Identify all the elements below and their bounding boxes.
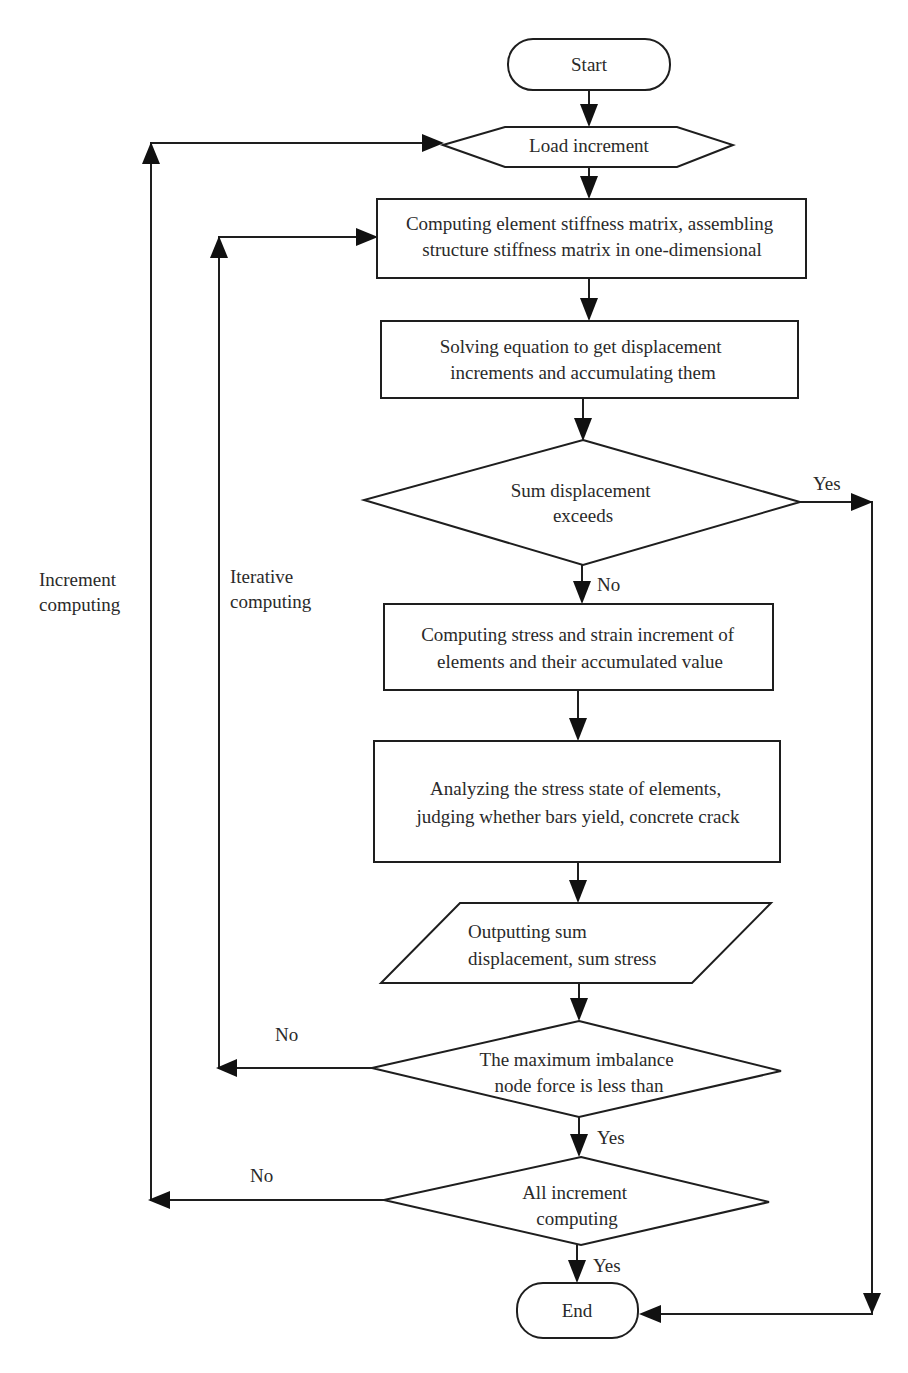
- node-analyze-line-2: judging whether bars yield, concrete cra…: [416, 806, 740, 827]
- svg-text:Load increment: Load increment: [529, 135, 649, 156]
- label-all-no: No: [250, 1165, 273, 1186]
- label-all-yes: Yes: [593, 1255, 621, 1276]
- node-check-all-line-1: All increment: [522, 1182, 628, 1203]
- arrow-left-icon: [639, 1305, 661, 1323]
- label-increment-computing: Increment computing: [39, 569, 121, 615]
- node-check-displacement-line-2: exceeds: [553, 505, 613, 526]
- arrow-down-icon: [570, 1134, 588, 1157]
- arrow-down-icon: [568, 1260, 586, 1283]
- edge-labels: Yes No No Yes No Yes: [250, 473, 841, 1276]
- label-displacement-no: No: [597, 574, 620, 595]
- arrow-down-icon: [580, 176, 598, 199]
- label-imbalance-yes: Yes: [597, 1127, 625, 1148]
- node-stress-strain: Computing stress and strain increment of…: [384, 604, 773, 690]
- node-check-imbalance-line-2: node force is less than: [495, 1075, 664, 1096]
- node-solve: Solving equation to get displacement inc…: [381, 321, 798, 398]
- label-displacement-yes: Yes: [813, 473, 841, 494]
- node-output: Outputting sum displacement, sum stress: [381, 903, 771, 983]
- arrow-down-icon: [580, 104, 598, 127]
- node-analyze: Analyzing the stress state of elements, …: [374, 741, 780, 862]
- flowchart-diagram: Start Load increment Computing element s…: [0, 0, 908, 1373]
- arrow-down-icon: [863, 1293, 881, 1314]
- arrow-down-icon: [573, 581, 591, 604]
- label-imbalance-no: No: [275, 1024, 298, 1045]
- node-output-line-1: Outputting sum: [468, 921, 587, 942]
- arrowheads: [142, 104, 881, 1323]
- node-check-all-line-2: computing: [536, 1208, 618, 1229]
- arrow-up-icon: [210, 236, 228, 258]
- arrow-down-icon: [570, 998, 588, 1021]
- node-end: End: [517, 1283, 638, 1338]
- arrow-down-icon: [569, 718, 587, 741]
- node-stress-strain-line-1: Computing stress and strain increment of: [421, 624, 735, 645]
- node-check-imbalance-line-1: The maximum imbalance: [480, 1049, 674, 1070]
- arrow-down-icon: [569, 880, 587, 903]
- arrow-down-icon: [574, 418, 592, 441]
- node-check-displacement-line-1: Sum displacement: [511, 480, 652, 501]
- label-iterative-computing: Iterative computing: [230, 566, 312, 612]
- arrow-up-icon: [142, 142, 160, 164]
- node-solve-line-1: Solving equation to get displacement: [440, 336, 723, 357]
- node-output-line-2: displacement, sum stress: [468, 948, 656, 969]
- node-stiffness-line-2: structure stiffness matrix in one-dimens…: [422, 239, 761, 260]
- svg-text:End: End: [562, 1300, 593, 1321]
- arrow-right-icon: [422, 134, 444, 152]
- svg-text:Start: Start: [571, 54, 608, 75]
- node-load-increment-label: Load increment: [529, 135, 649, 156]
- node-analyze-line-1: Analyzing the stress state of elements,: [430, 778, 721, 799]
- arrow-down-icon: [580, 298, 598, 321]
- node-solve-line-2: increments and accumulating them: [450, 362, 716, 383]
- node-load-increment: Load increment: [443, 127, 733, 167]
- edge-iterative-loop: [219, 237, 372, 1068]
- arrow-right-icon: [356, 228, 378, 246]
- arrow-right-icon: [851, 493, 873, 511]
- node-stiffness-line-1: Computing element stiffness matrix, asse…: [406, 213, 774, 234]
- node-stress-strain-line-2: elements and their accumulated value: [437, 651, 723, 672]
- loop-labels: Increment computing Iterative computing: [39, 566, 312, 615]
- node-stiffness: Computing element stiffness matrix, asse…: [377, 199, 806, 278]
- node-start: Start: [508, 39, 670, 90]
- node-start-label: Start: [571, 54, 608, 75]
- node-end-label: End: [562, 1300, 593, 1321]
- node-check-displacement: Sum displacement exceeds: [364, 440, 800, 565]
- node-check-imbalance: The maximum imbalance node force is less…: [372, 1021, 781, 1117]
- node-check-all: All increment computing: [384, 1157, 769, 1245]
